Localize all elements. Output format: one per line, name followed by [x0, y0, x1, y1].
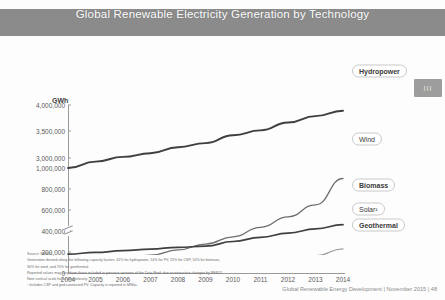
series-line [68, 225, 343, 254]
slide-badge-glyph: III [424, 85, 433, 92]
x-axis-tick-label: 2014 [336, 276, 350, 283]
series-line [68, 111, 343, 168]
page-title: Global Renewable Electricity Generation … [0, 0, 445, 27]
footer-text: Global Renewable Energy Development | No… [282, 286, 437, 292]
footnotes: Source: REN21Generation derived along th… [27, 251, 277, 289]
chart-container: GWh 0200,000400,000600,000800,0001,000,0… [0, 40, 445, 255]
series-label-solar[interactable]: Solar¹ [352, 202, 385, 215]
series-line [68, 179, 343, 256]
series-label-biomass[interactable]: Biomass [352, 178, 395, 191]
x-axis-tick-label: 2012 [281, 276, 295, 283]
series-label-wind[interactable]: Wind [352, 132, 382, 145]
series-label-geothermal[interactable]: Geothermal [352, 219, 405, 232]
series-label-hydropower[interactable]: Hydropower [352, 64, 407, 77]
x-axis-tick-label: 2013 [308, 276, 322, 283]
footnote-line: ¹ Includes CSP and grid-connected PV. Ca… [27, 282, 277, 288]
slide-badge[interactable]: III [414, 79, 442, 97]
